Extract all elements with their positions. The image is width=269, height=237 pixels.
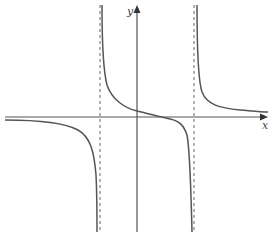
y-axis-arrow-icon (134, 5, 141, 13)
y-axis-label: y (126, 5, 134, 18)
function-graph: x y (0, 0, 269, 237)
middle-branch-curve (102, 5, 192, 232)
left-branch-curve (5, 120, 97, 232)
right-branch-curve (197, 5, 268, 112)
x-axis-label: x (262, 119, 269, 132)
